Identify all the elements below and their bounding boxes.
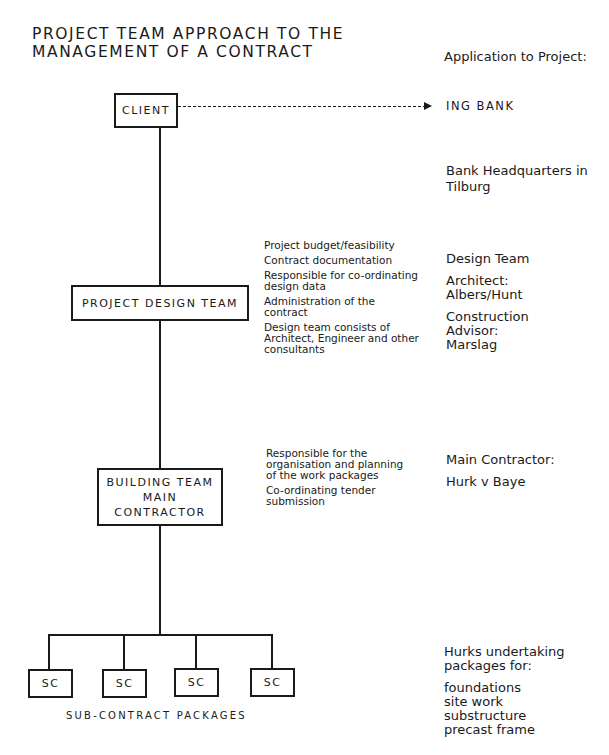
- architect-name: Albers/Hunt: [446, 288, 606, 302]
- note-item: Responsible for co-ordinating design dat…: [264, 270, 434, 292]
- architect-label: Architect:: [446, 274, 606, 288]
- sc-label: SC: [264, 675, 282, 690]
- building-team-notes: Responsible for the organisation and pla…: [266, 448, 416, 511]
- title-line-2: MANAGEMENT OF A CONTRACT: [32, 43, 344, 61]
- title-line-1: PROJECT TEAM APPROACH TO THE: [32, 25, 344, 43]
- note-item: Contract documentation: [264, 255, 454, 266]
- design-team-application: Design Team Architect: Albers/Hunt Const…: [446, 252, 606, 360]
- branch-drop: [271, 634, 273, 670]
- project-name: Bank Headquarters in Tilburg: [446, 163, 596, 195]
- branch-drop: [48, 634, 50, 670]
- package-item: substructure: [444, 709, 604, 723]
- note-item: Administration of the contract: [264, 296, 414, 318]
- subcontract-caption: SUB-CONTRACT PACKAGES: [66, 710, 247, 721]
- sc-label: SC: [188, 675, 206, 690]
- subcontract-box: SC: [174, 668, 219, 697]
- building-team-label-2: MAIN: [106, 490, 213, 505]
- branch-drop: [195, 634, 197, 670]
- design-team-notes: Project budget/feasibility Contract docu…: [264, 240, 454, 359]
- package-item: precast frame: [444, 723, 604, 737]
- connector-building-subcontracts: [159, 526, 161, 636]
- connector-design-building: [159, 321, 161, 469]
- advisor-label: Construction Advisor:: [446, 310, 556, 338]
- packages-label: Hurks undertaking packages for:: [444, 645, 594, 673]
- building-team-label-3: CONTRACTOR: [106, 505, 213, 520]
- subcontract-box: SC: [28, 669, 73, 698]
- note-item: Responsible for the organisation and pla…: [266, 448, 416, 481]
- design-team-label-right: Design Team: [446, 252, 606, 266]
- design-team-label: PROJECT DESIGN TEAM: [82, 296, 238, 311]
- packages-application: Hurks undertaking packages for: foundati…: [444, 645, 604, 737]
- client-box: CLIENT: [114, 93, 178, 128]
- building-team-box: BUILDING TEAM MAIN CONTRACTOR: [97, 468, 223, 526]
- subcontract-box: SC: [250, 668, 295, 697]
- dashed-arrow-line: [178, 106, 426, 107]
- package-item: site work: [444, 695, 604, 709]
- connector-client-design: [159, 128, 161, 286]
- note-item: Design team consists of Architect, Engin…: [264, 322, 424, 355]
- client-name: ING BANK: [446, 99, 514, 113]
- building-team-label-1: BUILDING TEAM: [106, 475, 213, 490]
- application-heading: Application to Project:: [444, 50, 604, 64]
- note-item: Co-ordinating tender submission: [266, 485, 396, 507]
- sc-label: SC: [42, 676, 60, 691]
- arrow-head-icon: [424, 102, 432, 110]
- diagram-title: PROJECT TEAM APPROACH TO THE MANAGEMENT …: [32, 25, 344, 61]
- package-item: foundations: [444, 681, 604, 695]
- sc-label: SC: [116, 676, 134, 691]
- client-label: CLIENT: [122, 103, 170, 118]
- branch-drop: [123, 634, 125, 670]
- advisor-name: Marslag: [446, 338, 606, 352]
- contractor-label: Main Contractor:: [446, 453, 606, 467]
- note-item: Project budget/feasibility: [264, 240, 454, 251]
- project-design-team-box: PROJECT DESIGN TEAM: [71, 285, 249, 321]
- subcontract-branch-line: [48, 634, 273, 636]
- contractor-name: Hurk v Baye: [446, 475, 606, 489]
- subcontract-box: SC: [102, 669, 147, 698]
- contractor-application: Main Contractor: Hurk v Baye: [446, 453, 606, 497]
